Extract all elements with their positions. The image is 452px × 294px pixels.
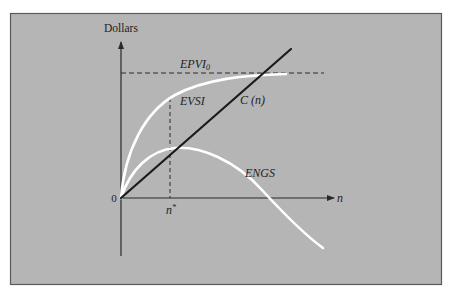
diagram-figure: Dollars n 0 EPVI0 EVSI C (n) ENGS n*: [0, 0, 452, 294]
y-axis-label: Dollars: [104, 22, 138, 34]
x-axis-label: n: [337, 191, 343, 205]
origin-label: 0: [111, 192, 117, 204]
epvi-label: EPVI0: [179, 57, 210, 72]
n-star-label-superscript: *: [172, 203, 176, 212]
evsi-label: EVSI: [179, 94, 206, 108]
engs-label: ENGS: [244, 166, 275, 180]
epvi-label-main: EPVI: [179, 57, 207, 71]
cost-label: C (n): [240, 93, 265, 107]
figure-frame: [11, 14, 442, 285]
epvi-label-subscript: 0: [206, 63, 210, 72]
